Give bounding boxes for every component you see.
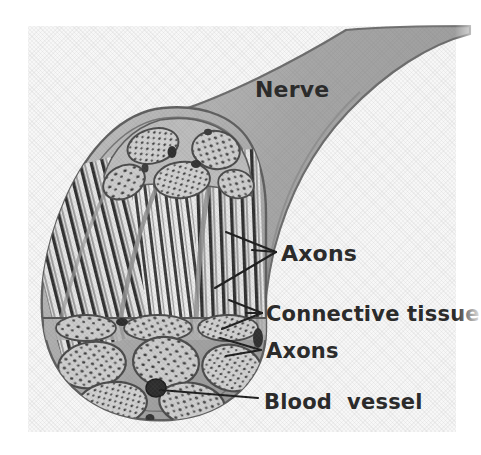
interstitial-vessel-3	[142, 164, 149, 173]
nerve-illustration	[0, 0, 481, 455]
label-nerve: Nerve	[255, 79, 329, 101]
label-connective-tissue: Connective tissue	[266, 304, 480, 325]
interstitial-vessel-4	[204, 129, 212, 135]
interstitial-vessel-6	[253, 328, 263, 348]
interstitial-vessel-5	[116, 318, 128, 326]
scanned-page-area: Nerve Axons Connective tissue Axons Bloo…	[0, 0, 481, 455]
nerve-diagram-figure: Nerve Axons Connective tissue Axons Bloo…	[0, 0, 481, 455]
label-blood-vessel: Blood vessel	[264, 392, 423, 413]
fascicle-mid-1	[56, 315, 116, 341]
blood-vessel	[146, 379, 166, 397]
interstitial-vessel-2	[191, 160, 201, 168]
label-axons-upper: Axons	[281, 243, 357, 265]
interstitial-vessel-1	[168, 146, 177, 158]
label-axons-lower: Axons	[266, 341, 339, 362]
